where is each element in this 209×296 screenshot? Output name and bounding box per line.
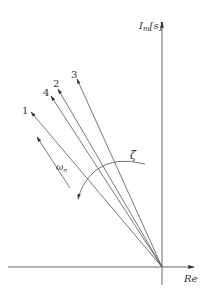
- omega-n-label: ωn: [56, 162, 67, 173]
- ray-1: [31, 112, 162, 267]
- ray-2: [58, 89, 162, 267]
- zeta-label: ζ: [130, 149, 137, 162]
- ray-3: [77, 79, 162, 267]
- imaginary-axis-label: Im[s]: [138, 20, 163, 33]
- ray-label-2: 2: [53, 78, 59, 89]
- omega-n-arrow: [37, 137, 70, 188]
- ray-label-4: 4: [43, 87, 49, 98]
- ray-4: [51, 96, 162, 267]
- s-plane-diagram: Im[s] Re 1 4 2 3 ωn ζ: [0, 0, 209, 296]
- ray-label-1: 1: [22, 105, 28, 116]
- real-axis-label: Re: [183, 273, 198, 284]
- ray-label-3: 3: [71, 69, 77, 80]
